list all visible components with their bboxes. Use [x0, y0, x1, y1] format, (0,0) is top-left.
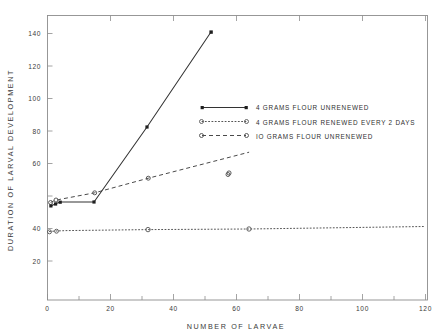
x-tick-label-80: 80 [295, 305, 304, 312]
legend-label-4g-renewed: 4 GRAMS FLOUR RENEWED EVERY 2 DAYS [256, 119, 415, 126]
data-point [209, 30, 212, 33]
data-point [145, 125, 148, 128]
chart-background [0, 0, 446, 335]
data-point [49, 204, 52, 207]
data-point [92, 200, 95, 203]
y-tick-label-60: 60 [32, 160, 41, 167]
chart-svg: 140 120 100 80 60 40 20 [0, 0, 446, 335]
legend-label-4g-unrenewed: 4 GRAMS FLOUR UNRENEWED [256, 104, 369, 111]
y-axis-title: DURATION OF LARVAL DEVELOPMENT [6, 69, 15, 251]
y-tick-label-40: 40 [32, 225, 41, 232]
legend-marker-filled-square [201, 106, 204, 109]
x-tick-label-60: 60 [232, 305, 241, 312]
x-tick-label-0: 0 [45, 305, 49, 312]
y-tick-label-120: 120 [28, 63, 41, 70]
y-tick-label-100: 100 [28, 95, 41, 102]
legend-marker-filled-square [245, 106, 248, 109]
data-point [54, 202, 57, 205]
y-tick-label-20: 20 [32, 258, 41, 265]
data-point [59, 201, 62, 204]
figure-container: 140 120 100 80 60 40 20 [0, 0, 446, 335]
legend-label-10g-unrenewed: IO GRAMS FLOUR UNRENEWED [256, 133, 373, 140]
x-tick-label-120: 120 [419, 305, 432, 312]
y-tick-label-80: 80 [32, 128, 41, 135]
x-tick-label-40: 40 [169, 305, 178, 312]
x-axis-title: NUMBER OF LARVAE [187, 322, 285, 331]
x-tick-label-20: 20 [106, 305, 115, 312]
x-tick-label-100: 100 [356, 305, 369, 312]
y-tick-label-140: 140 [28, 30, 41, 37]
